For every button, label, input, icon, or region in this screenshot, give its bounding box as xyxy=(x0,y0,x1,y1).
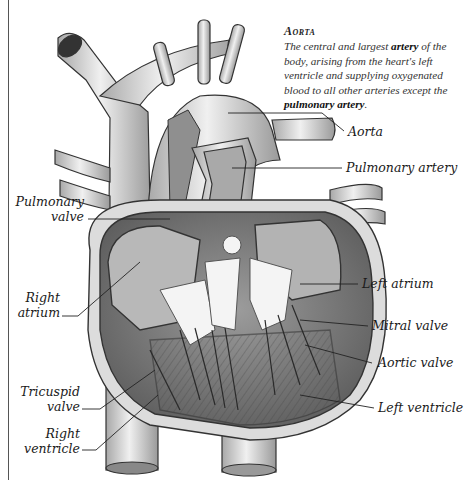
label-line: ventricle xyxy=(14,441,80,456)
info-body: The central and largest artery of the bo… xyxy=(284,39,468,112)
label-line: valve xyxy=(14,399,80,414)
info-title: Aorta xyxy=(284,24,468,39)
info-text: The central and largest xyxy=(284,40,391,52)
label-right-atrium: Right atrium xyxy=(14,290,60,320)
info-keyword-artery: artery xyxy=(391,40,418,52)
label-left-ventricle: Left ventricle xyxy=(378,400,463,415)
label-tricuspid-valve: Tricuspid valve xyxy=(14,384,80,414)
label-aortic-valve: Aortic valve xyxy=(378,355,454,370)
label-line: Pulmonary xyxy=(14,194,84,209)
info-text: . xyxy=(365,98,368,110)
aorta-info-box: Aorta The central and largest artery of … xyxy=(284,24,468,112)
label-aorta: Aorta xyxy=(348,124,383,139)
label-line: Tricuspid xyxy=(14,384,80,399)
label-line: valve xyxy=(14,209,84,224)
label-right-ventricle: Right ventricle xyxy=(14,426,80,456)
info-keyword-pulmonary-artery: pulmonary artery xyxy=(284,98,365,110)
label-left-atrium: Left atrium xyxy=(362,276,434,291)
label-mitral-valve: Mitral valve xyxy=(372,318,448,333)
label-line: Right xyxy=(14,290,60,305)
label-line: atrium xyxy=(14,305,60,320)
label-pulmonary-artery: Pulmonary artery xyxy=(346,160,457,175)
label-pulmonary-valve: Pulmonary valve xyxy=(14,194,84,224)
label-line: Right xyxy=(14,426,80,441)
